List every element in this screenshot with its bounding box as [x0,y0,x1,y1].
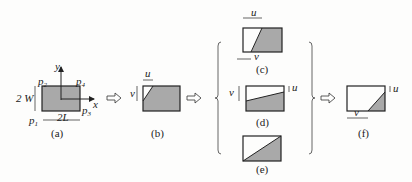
svg-text:v: v [130,87,135,99]
svg-text:u: u [292,81,298,93]
panel-e: (e) [243,136,281,176]
caption-d: (d) [256,116,269,129]
caption-e: (e) [256,163,269,176]
caption-a: (a) [51,127,64,140]
svg-text:v: v [354,106,359,118]
svg-text:v: v [229,86,234,98]
panel-c: u v (c) [237,6,282,76]
x-axis-label: x [92,98,98,110]
y-axis-label: y [54,60,60,72]
left-brace [215,42,221,154]
panel-d: u v (d) [229,81,298,129]
transformation-diagram: y x p2 p4 p1 p3 2 W 2L (a) u v (b) u [0,0,412,182]
svg-text:u: u [145,67,151,79]
caption-c: (c) [256,63,269,76]
arrow-a-b [107,93,121,103]
width-label: 2L [57,111,69,123]
svg-text:u: u [251,6,257,18]
panel-a: y x p2 p4 p1 p3 2 W 2L (a) [16,60,98,140]
height-label: 2 W [16,92,34,104]
panel-f: u v (f) [347,82,399,140]
svg-text:p3: p3 [81,104,92,118]
svg-text:v: v [254,50,259,62]
svg-text:p1: p1 [28,114,38,128]
caption-b: (b) [151,127,164,140]
svg-text:p2: p2 [37,75,48,89]
svg-text:u: u [393,82,399,94]
caption-f: (f) [358,127,369,140]
panel-b: u v (b) [130,67,180,140]
right-brace [309,42,315,154]
svg-text:p4: p4 [75,75,86,89]
